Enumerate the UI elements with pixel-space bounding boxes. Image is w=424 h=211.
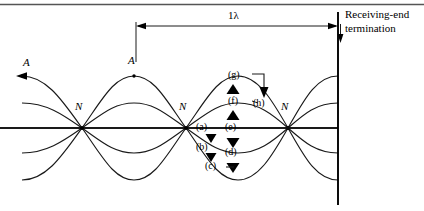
phase-label-g: (g) bbox=[228, 69, 240, 80]
phase-label-a: (a) bbox=[196, 121, 207, 132]
arrow-up-marker-c-to-d bbox=[227, 163, 240, 173]
antinode-label-left: A bbox=[23, 56, 30, 68]
antinode-dot-left bbox=[21, 74, 24, 77]
figure-canvas: A A N N N 1λ Receiving-end termination (… bbox=[0, 0, 424, 211]
wavelength-dimension-label: 1λ bbox=[228, 9, 239, 21]
node-label-2: N bbox=[179, 100, 186, 112]
antinode-dot-middle bbox=[132, 74, 135, 77]
wave-curve-large-negative bbox=[22, 128, 338, 180]
phase-label-h: (h) bbox=[253, 97, 265, 108]
phase-label-c: (c) bbox=[205, 160, 216, 171]
termination-label-line-1: Receiving-end bbox=[345, 8, 409, 20]
node-label-1: N bbox=[75, 100, 82, 112]
node-dot-2 bbox=[184, 126, 188, 130]
node-label-3: N bbox=[281, 100, 288, 112]
antinode-label-middle: A bbox=[128, 54, 135, 66]
termination-label-line-2: termination bbox=[345, 22, 396, 34]
dimension-arrowhead-right bbox=[328, 23, 338, 29]
phase-label-f: (f) bbox=[228, 95, 238, 106]
arrow-up-marker-g-to-f bbox=[227, 84, 240, 94]
node-dot-1 bbox=[80, 126, 84, 130]
phase-label-b: (b) bbox=[196, 141, 208, 152]
phase-label-e: (e) bbox=[225, 121, 236, 132]
arrow-up-marker-f-to-e bbox=[227, 110, 240, 120]
phase-label-d: (d) bbox=[225, 146, 237, 157]
dimension-arrowhead-left bbox=[136, 23, 146, 29]
